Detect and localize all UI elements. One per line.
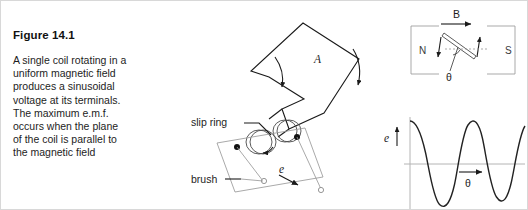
tilted-coil-edge-a [442, 36, 474, 59]
output-terminal-upper [261, 178, 266, 183]
emf-label: e [279, 163, 284, 175]
figure-caption-text: A single coil rotating in a uniform magn… [13, 54, 163, 160]
slip-ring-front-inner [246, 130, 272, 154]
brush-contact-right [294, 134, 300, 140]
south-pole-label: S [505, 45, 512, 56]
waveform-y-axis-label: e [384, 132, 389, 144]
force-arrow-up-right [477, 37, 480, 57]
figure-title: Figure 14.1 [13, 29, 163, 42]
south-pole-piece [487, 26, 515, 74]
coil-loop-outline [251, 23, 359, 129]
angle-leader-line [450, 47, 458, 71]
north-pole-piece [411, 26, 439, 74]
tilted-coil-cap-left [442, 33, 444, 36]
slip-ring-label: slip ring [191, 116, 227, 128]
north-pole-label: N [419, 45, 426, 56]
rotation-arrow-right [353, 49, 360, 85]
waveform-graph-group: e θ [384, 117, 525, 209]
caption-block: Figure 14.1 A single coil rotating in a … [13, 29, 163, 160]
brush-leader-line-extension [241, 179, 263, 181]
rotation-arrow-left [275, 57, 283, 87]
coil-lead-upper [278, 129, 289, 137]
coil-area-label: A [313, 53, 322, 65]
brush-base-plate [217, 128, 323, 192]
tilted-coil-cap-right [474, 56, 476, 59]
angle-arc [453, 50, 460, 55]
output-terminal-lower [318, 187, 323, 192]
slip-ring-front [250, 130, 276, 154]
tilted-coil-edge-b [444, 33, 476, 56]
emf-arrow [279, 175, 298, 185]
magnet-field-group: N S B θ [411, 8, 515, 83]
magnetic-field-label: B [453, 8, 460, 20]
brush-contact-left [234, 144, 240, 150]
angle-label-magnet: θ [446, 71, 452, 83]
waveform-curve [410, 121, 525, 206]
force-arrow-down-left [438, 37, 441, 57]
brush-lead-right [297, 137, 321, 189]
brush-lead-left [237, 147, 263, 181]
slip-ring-back-inner [273, 120, 297, 142]
slip-ring-leader-line [244, 123, 271, 135]
brush-label: brush [191, 173, 217, 185]
waveform-x-axis-label: θ [465, 177, 471, 189]
shaft-rotation-arrow [263, 147, 273, 153]
coil-lead-lower [269, 109, 282, 119]
slip-ring-back [277, 120, 301, 142]
rotating-coil-group: A e slip ri [191, 23, 360, 193]
figure-panel: Figure 14.1 A single coil rotating in a … [0, 0, 528, 210]
